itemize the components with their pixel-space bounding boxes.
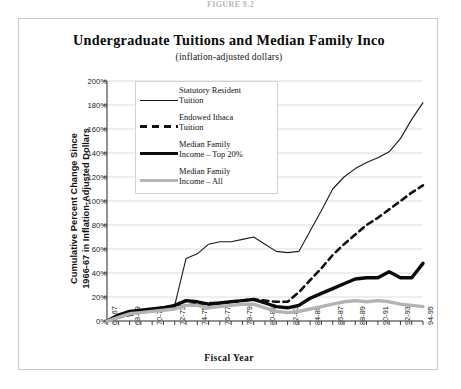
- figure-container: FIGURE 9.2 Undergraduate Tuitions and Me…: [0, 0, 461, 389]
- chart-svg: [19, 19, 439, 371]
- figure-caption: FIGURE 9.2: [0, 0, 461, 9]
- legend-swatch-icon: [140, 100, 178, 109]
- legend-label: Endowed IthacaTuition: [179, 113, 277, 132]
- legend-item-0[interactable]: Statutory ResidentTuition: [140, 87, 276, 113]
- plot-area: [19, 19, 439, 371]
- legend-label-line2: Income – Top 20%: [179, 150, 243, 159]
- legend-label-line1: Median Family: [179, 140, 230, 149]
- legend-label-line1: Statutory Resident: [179, 86, 241, 95]
- legend-swatch-icon: [140, 125, 178, 128]
- chart-frame: Undergraduate Tuitions and Median Family…: [18, 18, 438, 370]
- legend-item-3[interactable]: Median FamilyIncome – All: [140, 168, 276, 194]
- legend-swatch-icon: [140, 179, 178, 182]
- legend-label: Median FamilyIncome – All: [179, 167, 277, 186]
- legend-label-line1: Median Family: [179, 167, 230, 176]
- legend: Statutory ResidentTuitionEndowed IthacaT…: [135, 81, 278, 194]
- legend-item-1[interactable]: Endowed IthacaTuition: [140, 114, 276, 140]
- legend-label-line1: Endowed Ithaca: [179, 113, 233, 122]
- legend-label-line2: Tuition: [179, 123, 203, 132]
- legend-label-line2: Tuition: [179, 96, 203, 105]
- legend-swatch-icon: [140, 152, 178, 155]
- legend-item-2[interactable]: Median FamilyIncome – Top 20%: [140, 141, 276, 167]
- legend-label-line2: Income – All: [179, 177, 223, 186]
- legend-label: Statutory ResidentTuition: [179, 86, 277, 105]
- legend-label: Median FamilyIncome – Top 20%: [179, 140, 277, 159]
